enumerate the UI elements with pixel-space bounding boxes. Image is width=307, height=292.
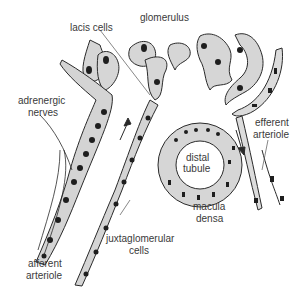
label-efferent-arteriole-2: arteriole — [253, 129, 289, 140]
label-distal-tubule-1: distal — [186, 152, 209, 163]
label-afferent-arteriole-2: arteriole — [26, 270, 62, 281]
label-adrenergic-nerves-2: nerves — [28, 107, 58, 118]
label-distal-tubule-2: tubule — [183, 163, 210, 174]
label-juxtaglomerular-cells-2: cells — [129, 245, 149, 256]
label-glomerulus: glomerulus — [140, 12, 189, 23]
label-macula-densa-2: densa — [196, 213, 223, 224]
label-macula-densa-1: macula — [193, 201, 225, 212]
label-juxtaglomerular-cells-1: juxtaglomerular — [106, 233, 174, 244]
label-lacis-cells: lacis cells — [70, 22, 113, 33]
jga-diagram: lacis cells glomerulus adrenergic nerves… — [0, 0, 307, 292]
jga-illustration — [0, 0, 307, 292]
label-adrenergic-nerves-1: adrenergic — [18, 95, 65, 106]
label-afferent-arteriole-1: afferent — [28, 258, 62, 269]
label-efferent-arteriole-1: efferent — [255, 117, 289, 128]
